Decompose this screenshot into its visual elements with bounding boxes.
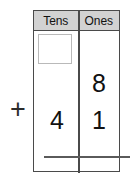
table-body: 8 4 1 [34,31,119,171]
addend-1-ones-digit: 8 [84,71,114,96]
place-value-table: Tens Ones 8 4 1 [33,10,120,172]
addend-2-tens-digit: 4 [42,108,72,133]
column-header-ones: Ones [78,11,120,30]
carry-box-tens[interactable] [38,34,72,64]
plus-operator-icon: + [5,96,31,122]
column-header-tens: Tens [34,11,78,30]
table-header-row: Tens Ones [34,11,119,31]
addend-2-ones-digit: 1 [84,108,114,133]
sum-rule-line [44,156,130,158]
place-value-addition-worksheet: + Tens Ones 8 4 1 [0,0,130,186]
